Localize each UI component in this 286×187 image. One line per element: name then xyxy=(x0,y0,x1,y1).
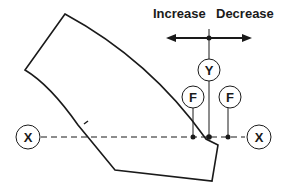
x-left-label: X xyxy=(24,130,33,145)
tick-mark xyxy=(84,121,88,124)
diagram: Increase Decrease X X Y F F xyxy=(0,0,286,187)
y-label: Y xyxy=(205,63,214,78)
arrow-left-icon xyxy=(166,34,176,42)
f-right-dot xyxy=(226,135,231,140)
x-right-label: X xyxy=(255,130,264,145)
arrow-right-icon xyxy=(242,34,252,42)
y-dot xyxy=(206,134,212,140)
f-left-dot xyxy=(191,135,196,140)
f-left-label: F xyxy=(189,90,197,105)
increase-label: Increase xyxy=(153,6,206,21)
f-right-label: F xyxy=(226,90,234,105)
decrease-label: Decrease xyxy=(216,6,274,21)
diagram-canvas: X X Y F F xyxy=(0,0,286,187)
